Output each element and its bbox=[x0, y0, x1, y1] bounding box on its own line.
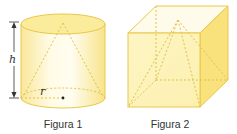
cube-front-face bbox=[128, 33, 200, 107]
radius-label: r bbox=[40, 85, 46, 98]
geometry-diagram: r h Figura 1 Figura 2 bbox=[0, 0, 237, 134]
base-center-dot bbox=[62, 97, 65, 100]
figure-1-cylinder: r h Figura 1 bbox=[9, 14, 105, 130]
figure-1-caption: Figura 1 bbox=[44, 118, 83, 130]
figure-2-cube: Figura 2 bbox=[128, 6, 228, 130]
cylinder-body bbox=[21, 24, 105, 108]
height-label: h bbox=[9, 53, 16, 66]
figure-2-caption: Figura 2 bbox=[151, 118, 190, 130]
